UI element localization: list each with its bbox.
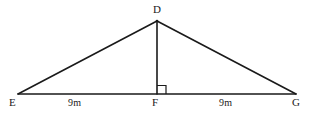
vertex-label-D: D xyxy=(153,4,161,15)
vertex-label-E: E xyxy=(9,97,16,108)
edge-DE xyxy=(18,21,157,94)
geometry-diagram: D E F G 9m 9m xyxy=(0,0,313,113)
vertex-label-G: G xyxy=(292,97,300,108)
vertex-label-F: F xyxy=(152,97,158,108)
right-angle-marker-icon xyxy=(157,86,166,95)
segment-length-label-FG: 9m xyxy=(219,98,232,108)
segment-length-label-EF: 9m xyxy=(68,98,81,108)
vertex-point-D xyxy=(156,20,159,23)
edge-DG xyxy=(157,21,296,94)
